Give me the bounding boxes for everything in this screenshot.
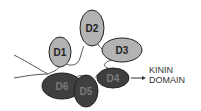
domain-d3-label: D3 <box>116 45 129 56</box>
domain-d2-label: D2 <box>86 23 99 34</box>
kinin-domain-label-line1: KININ <box>149 65 173 75</box>
domain-d5: D5 <box>74 75 98 107</box>
domain-d4-label: D4 <box>107 73 120 84</box>
domain-d5-label: D5 <box>80 86 93 97</box>
domain-d3: D3 <box>102 38 142 62</box>
domain-diagram: D1 D2 D3 D4 D6 D5 KININ DOMAIN <box>0 0 201 111</box>
domain-d2: D2 <box>80 10 104 46</box>
arrow-icon <box>131 76 146 80</box>
domain-d1-label: D1 <box>54 47 67 58</box>
domain-d4: D4 <box>97 68 129 88</box>
domain-d1: D1 <box>49 37 71 67</box>
domain-d6-label: D6 <box>56 81 69 92</box>
kinin-domain-label-line2: DOMAIN <box>149 75 185 85</box>
